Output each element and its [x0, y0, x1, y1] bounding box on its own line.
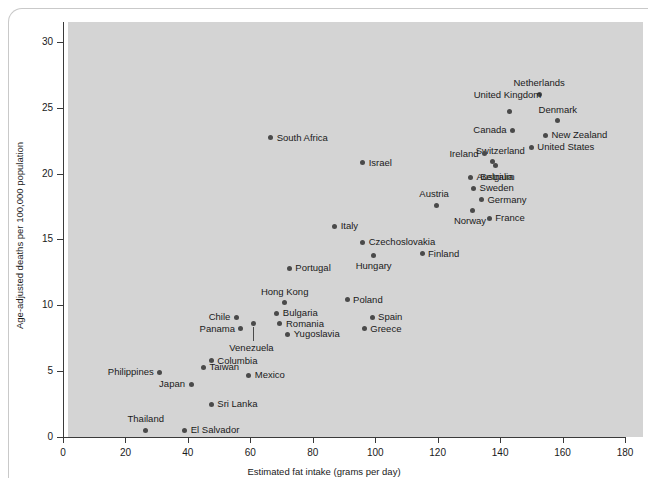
data-point-label: United States	[537, 142, 594, 152]
data-point-label: France	[495, 213, 525, 223]
data-point-label: South Africa	[277, 133, 328, 143]
x-tick-mark	[375, 437, 376, 443]
data-point	[371, 253, 376, 258]
data-point-label: Panama	[200, 324, 235, 334]
data-point-label: El Salvador	[191, 425, 240, 435]
x-tick-mark	[63, 437, 64, 443]
data-point	[234, 315, 239, 320]
data-point-label: Taiwan	[210, 362, 240, 372]
data-point-label: Sweden	[480, 183, 514, 193]
x-tick-label: 100	[355, 447, 395, 458]
x-tick-mark	[313, 437, 314, 443]
x-tick-label: 140	[480, 447, 520, 458]
x-tick-mark	[500, 437, 501, 443]
x-tick-mark	[563, 437, 564, 443]
y-axis-line	[63, 22, 64, 437]
data-point-label: Germany	[487, 195, 526, 205]
y-tick-label: 0	[13, 432, 53, 442]
data-point-label: Hungary	[356, 261, 392, 271]
data-point-label: Norway	[454, 216, 486, 226]
x-tick-label: 0	[43, 447, 83, 458]
data-point-label: Yugoslavia	[294, 329, 340, 339]
data-point-label: Portugal	[295, 263, 330, 273]
data-point	[434, 203, 439, 208]
data-point-label: Austria	[419, 189, 449, 199]
y-tick-mark	[57, 239, 63, 240]
x-axis-line	[63, 437, 626, 438]
data-point-label: Italy	[341, 221, 358, 231]
data-point-label: Thailand	[128, 414, 164, 424]
y-axis-title: Age-adjusted deaths per 100,000 populati…	[14, 71, 25, 401]
data-point-label: Israel	[369, 158, 392, 168]
data-point	[543, 133, 548, 138]
y-tick-mark	[57, 174, 63, 175]
y-tick-mark	[57, 305, 63, 306]
data-point-label: Spain	[378, 312, 402, 322]
x-tick-mark	[125, 437, 126, 443]
x-tick-mark	[250, 437, 251, 443]
data-point	[370, 315, 375, 320]
data-point	[493, 163, 498, 168]
data-point-label: Finland	[428, 249, 459, 259]
data-point	[189, 382, 194, 387]
data-point-label: Greece	[370, 324, 401, 334]
data-point	[201, 365, 206, 370]
x-tick-label: 60	[230, 447, 270, 458]
data-point-label: Hong Kong	[261, 287, 309, 297]
data-point-label: Venezuela	[229, 343, 273, 353]
data-point	[529, 145, 534, 150]
label-leader-line	[253, 327, 254, 341]
data-point-label: Poland	[353, 295, 383, 305]
scatter-plot-figure: 051015202530 020406080100120140160180 Ne…	[0, 0, 648, 488]
data-point-label: Czechoslovakia	[369, 237, 436, 247]
x-tick-label: 180	[605, 447, 645, 458]
data-point-label: Denmark	[539, 105, 578, 115]
data-point-label: Japan	[159, 379, 185, 389]
data-point	[246, 373, 251, 378]
data-point	[209, 402, 214, 407]
x-tick-label: 40	[168, 447, 208, 458]
x-tick-label: 120	[418, 447, 458, 458]
data-point-label: Chile	[209, 312, 231, 322]
data-point-label: United Kingdom	[474, 90, 542, 100]
data-point-label: Philippines	[108, 367, 154, 377]
x-tick-label: 20	[105, 447, 145, 458]
data-point-label: Canada	[473, 125, 506, 135]
data-point-label: Sri Lanka	[217, 399, 257, 409]
x-tick-label: 160	[543, 447, 583, 458]
data-point-label: Bulgaria	[283, 308, 318, 318]
x-axis-title: Estimated fat intake (grams per day)	[0, 466, 648, 477]
y-tick-label: 30	[13, 37, 53, 47]
data-point	[332, 224, 337, 229]
y-tick-mark	[57, 42, 63, 43]
data-point-label: New Zealand	[551, 130, 607, 140]
data-point	[360, 240, 365, 245]
x-tick-mark	[188, 437, 189, 443]
data-point-label: Netherlands	[514, 78, 565, 88]
y-tick-mark	[57, 371, 63, 372]
x-tick-mark	[625, 437, 626, 443]
x-tick-label: 80	[293, 447, 333, 458]
data-point	[510, 128, 515, 133]
data-point-label: Australia	[476, 172, 513, 182]
data-point	[487, 216, 492, 221]
y-tick-mark	[57, 108, 63, 109]
data-point	[470, 208, 475, 213]
data-point-label: Romania	[286, 319, 324, 329]
data-point	[468, 175, 473, 180]
data-point-label: Ireland	[449, 149, 478, 159]
data-point	[287, 266, 292, 271]
data-point-label: Mexico	[255, 370, 285, 380]
data-point	[471, 186, 476, 191]
x-tick-mark	[438, 437, 439, 443]
data-point	[420, 251, 425, 256]
